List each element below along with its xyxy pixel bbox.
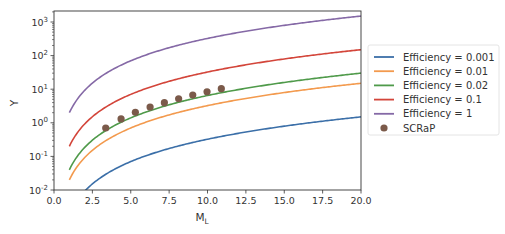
x-axis-label-main: M [195, 211, 204, 223]
x-tick-label: 0.0 [46, 195, 61, 206]
scrap-point [117, 115, 124, 122]
scrap-point [132, 109, 139, 116]
y-tick-label: 101 [31, 83, 48, 95]
y-tick-label: 103 [31, 16, 48, 28]
y-axis: 10-210-1100101102103 [29, 12, 54, 196]
legend: Efficiency = 0.001Efficiency = 0.01Effic… [368, 45, 499, 135]
scrap-point [146, 103, 153, 110]
y-tick-label: 100 [31, 116, 48, 128]
y-tick-label: 10-1 [29, 150, 48, 162]
y-tick-label: 102 [31, 49, 48, 61]
scrap-point [102, 124, 109, 131]
x-tick-label: 15.0 [274, 195, 295, 206]
legend-label: Efficiency = 0.001 [403, 52, 495, 63]
scrap-point [175, 95, 182, 102]
legend-label: Efficiency = 0.02 [403, 80, 488, 91]
x-axis: 0.02.55.07.510.012.515.017.520.0 [46, 190, 371, 206]
x-tick-label: 2.5 [85, 195, 100, 206]
plot-area [54, 11, 361, 213]
chart: 0.02.55.07.510.012.515.017.520.0 10-210-… [0, 0, 505, 234]
scrap-point [161, 99, 168, 106]
scrap-point [189, 91, 196, 98]
x-tick-label: 5.0 [123, 195, 138, 206]
legend-marker-swatch [380, 124, 387, 131]
x-tick-label: 10.0 [197, 195, 218, 206]
legend-label: Efficiency = 0.01 [403, 66, 488, 77]
x-tick-label: 17.5 [312, 195, 333, 206]
scrap-point [218, 85, 225, 92]
x-tick-label: 20.0 [350, 195, 371, 206]
x-tick-label: 7.5 [162, 195, 177, 206]
scrap-point [203, 88, 210, 95]
x-axis-label: ML [195, 211, 209, 226]
legend-label: Efficiency = 0.1 [403, 94, 482, 105]
y-tick-label: 10-2 [29, 184, 48, 196]
x-tick-label: 12.5 [235, 195, 256, 206]
legend-label: SCRaP [403, 123, 435, 134]
x-axis-label-subscript: L [204, 217, 209, 226]
legend-label: Efficiency = 1 [403, 108, 472, 119]
y-axis-label: Y [8, 99, 20, 107]
